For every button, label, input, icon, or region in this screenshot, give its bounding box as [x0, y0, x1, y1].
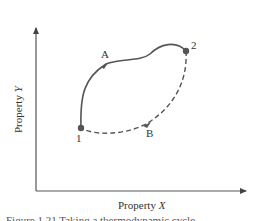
y-axis-title: Property Y: [12, 84, 24, 133]
figure-caption: Figure 1.21 Taking a thermodynamic cycle: [6, 214, 195, 221]
process-path-a: [81, 44, 186, 128]
point-1-label: 1: [76, 132, 82, 144]
point-2-label: 2: [191, 39, 197, 51]
property-diagram: 1 2 A B Property X Property Y: [0, 0, 262, 221]
state-point-1: [78, 125, 84, 131]
state-point-2: [183, 48, 189, 54]
path-b-label: B: [146, 127, 153, 139]
path-a-label: A: [101, 48, 109, 60]
x-axis-title: Property X: [118, 199, 167, 211]
process-path-b: [81, 51, 186, 133]
